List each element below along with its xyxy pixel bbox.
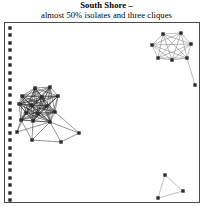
plot-frame (4, 22, 200, 203)
network-graph-figure: South Shore – almost 50% isolates and th… (0, 0, 213, 207)
figure-subtitle: almost 50% isolates and three cliques (0, 10, 213, 21)
figure-title-block: South Shore – almost 50% isolates and th… (0, 0, 213, 21)
page-title: South Shore – (0, 0, 213, 10)
